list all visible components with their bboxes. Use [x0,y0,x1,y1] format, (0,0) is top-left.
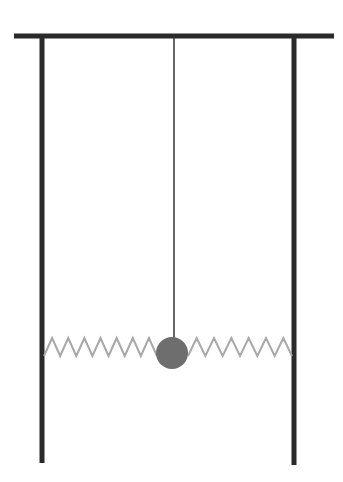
left-spring [44,338,157,356]
pendulum-spring-diagram [0,0,343,482]
diagram-canvas [0,0,343,482]
right-spring [188,338,292,356]
pendulum-bob [156,337,188,369]
